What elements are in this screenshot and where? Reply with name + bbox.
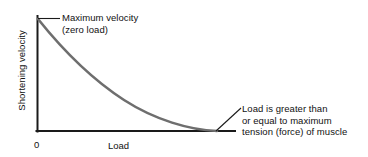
annotation-maximum-load-line2: or equal to maximum	[242, 115, 347, 127]
annotation-maximum-load-line1: Load is greater than	[242, 103, 347, 115]
force-velocity-chart: Maximum velocity (zero load) Load is gre…	[0, 0, 368, 157]
x-axis-label: Load	[108, 140, 129, 151]
force-velocity-curve	[38, 19, 217, 131]
max-load-leader-line	[216, 108, 241, 131]
annotation-maximum-load: Load is greater than or equal to maximum…	[242, 103, 347, 138]
annotation-maximum-velocity-line2: (zero load)	[62, 24, 138, 36]
annotation-maximum-velocity: Maximum velocity (zero load)	[62, 12, 138, 35]
annotation-maximum-velocity-line1: Maximum velocity	[62, 12, 138, 24]
y-axis-label: Shortening velocity	[16, 19, 27, 123]
x-axis-origin-tick-label: 0	[34, 139, 39, 150]
annotation-maximum-load-line3: tension (force) of muscle	[242, 126, 347, 138]
